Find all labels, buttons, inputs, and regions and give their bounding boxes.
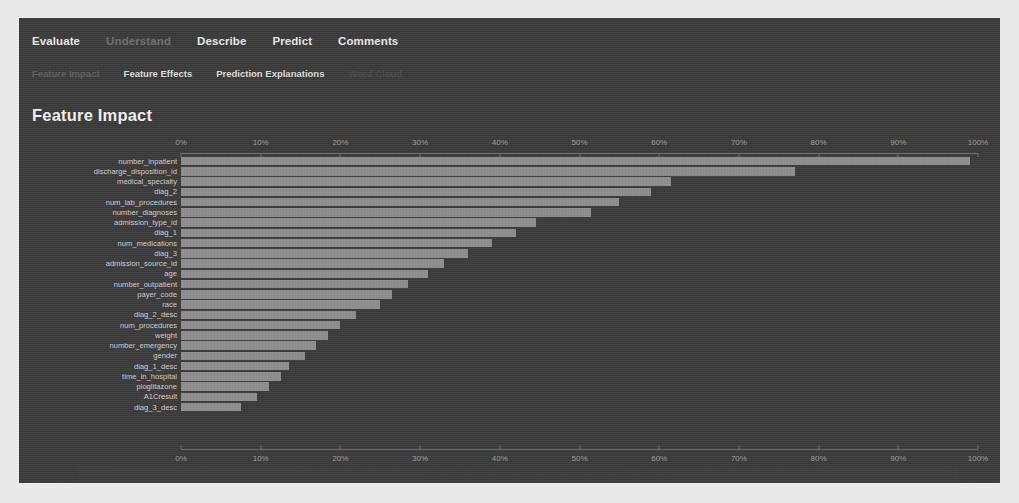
bar-fill[interactable] bbox=[181, 341, 316, 350]
bar-category-label: age bbox=[29, 269, 181, 278]
bar-row[interactable]: admission_source_id bbox=[29, 259, 990, 269]
sub-tab-word-cloud[interactable]: Word Cloud bbox=[348, 68, 402, 79]
bar-row[interactable]: number_emergency bbox=[29, 341, 990, 351]
bar-track bbox=[181, 382, 978, 392]
x-axis-tick-label: 60% bbox=[651, 454, 667, 463]
bar-fill[interactable] bbox=[181, 331, 328, 340]
bar-fill[interactable] bbox=[181, 300, 380, 309]
main-tab-predict[interactable]: Predict bbox=[272, 35, 312, 47]
x-axis-tick-label: 90% bbox=[890, 454, 906, 463]
bar-category-label: admission_type_id bbox=[29, 218, 181, 227]
bar-row[interactable]: num_procedures bbox=[29, 320, 990, 330]
x-axis-tick-label: 10% bbox=[253, 138, 269, 147]
bar-fill[interactable] bbox=[181, 198, 619, 207]
bar-fill[interactable] bbox=[181, 362, 289, 371]
bar-category-label: medical_specialty bbox=[29, 177, 181, 186]
bar-track bbox=[181, 351, 978, 361]
bar-fill[interactable] bbox=[181, 352, 305, 361]
bar-category-label: A1Cresult bbox=[29, 392, 181, 401]
x-axis-tick-label: 60% bbox=[651, 138, 667, 147]
bar-track bbox=[181, 330, 978, 340]
bar-fill[interactable] bbox=[181, 311, 356, 320]
bar-row[interactable]: age bbox=[29, 269, 990, 279]
main-tab-describe[interactable]: Describe bbox=[197, 35, 246, 47]
bar-category-label: diag_1 bbox=[29, 228, 181, 237]
bar-fill[interactable] bbox=[181, 239, 492, 248]
bar-row[interactable]: num_medications bbox=[29, 238, 990, 248]
sub-tab-prediction-explanations[interactable]: Prediction Explanations bbox=[216, 68, 324, 79]
bar-track bbox=[181, 166, 978, 176]
bar-row[interactable]: number_outpatient bbox=[29, 279, 990, 289]
bar-row[interactable]: number_diagnoses bbox=[29, 207, 990, 217]
bar-fill[interactable] bbox=[181, 290, 392, 299]
bar-row[interactable]: gender bbox=[29, 351, 990, 361]
bar-row[interactable]: diag_1_desc bbox=[29, 361, 990, 371]
bar-row[interactable]: admission_type_id bbox=[29, 218, 990, 228]
x-axis-tick-label: 0% bbox=[175, 138, 187, 147]
bar-track bbox=[181, 197, 978, 207]
main-tab-comments[interactable]: Comments bbox=[338, 35, 398, 47]
bar-row[interactable]: race bbox=[29, 300, 990, 310]
bar-fill[interactable] bbox=[181, 403, 241, 412]
bar-category-label: number_emergency bbox=[29, 341, 181, 350]
bar-row[interactable]: diag_3_desc bbox=[29, 402, 990, 412]
bar-track bbox=[181, 320, 978, 330]
sub-tab-feature-impact[interactable]: Feature Impact bbox=[32, 68, 100, 79]
x-axis-tick-label: 100% bbox=[968, 138, 988, 147]
bar-row[interactable]: A1Cresult bbox=[29, 392, 990, 402]
x-axis-tick-label: 10% bbox=[253, 454, 269, 463]
bar-track bbox=[181, 371, 978, 381]
bar-fill[interactable] bbox=[181, 188, 651, 197]
bar-fill[interactable] bbox=[181, 270, 428, 279]
bar-category-label: pioglitazone bbox=[29, 382, 181, 391]
x-axis-tick-label: 70% bbox=[731, 138, 747, 147]
x-axis-tick-label: 40% bbox=[492, 138, 508, 147]
bar-fill[interactable] bbox=[181, 208, 591, 217]
x-axis-tick-label: 20% bbox=[332, 138, 348, 147]
bar-track bbox=[181, 310, 978, 320]
page-title: Feature Impact bbox=[32, 106, 1000, 125]
bar-fill[interactable] bbox=[181, 157, 970, 166]
bar-track bbox=[181, 238, 978, 248]
bar-fill[interactable] bbox=[181, 321, 340, 330]
bar-row[interactable]: payer_code bbox=[29, 289, 990, 299]
bar-track bbox=[181, 218, 978, 228]
bar-fill[interactable] bbox=[181, 259, 444, 268]
x-axis-tick-label: 0% bbox=[175, 454, 187, 463]
bar-fill[interactable] bbox=[181, 229, 516, 238]
main-tab-evaluate[interactable]: Evaluate bbox=[32, 35, 80, 47]
main-tab-bar: Evaluate Understand Describe Predict Com… bbox=[19, 18, 1000, 52]
bar-track bbox=[181, 269, 978, 279]
bar-row[interactable]: time_in_hospital bbox=[29, 371, 990, 381]
bar-row[interactable]: num_lab_procedures bbox=[29, 197, 990, 207]
bar-row[interactable]: diag_2_desc bbox=[29, 310, 990, 320]
x-axis-tick-label: 70% bbox=[731, 454, 747, 463]
bar-row[interactable]: discharge_disposition_id bbox=[29, 166, 990, 176]
bar-track bbox=[181, 259, 978, 269]
bar-row[interactable]: medical_specialty bbox=[29, 177, 990, 187]
bar-category-label: gender bbox=[29, 351, 181, 360]
bar-fill[interactable] bbox=[181, 249, 468, 258]
bar-row[interactable]: weight bbox=[29, 330, 990, 340]
bar-track bbox=[181, 207, 978, 217]
main-tab-understand[interactable]: Understand bbox=[106, 35, 171, 47]
bar-category-label: num_procedures bbox=[29, 321, 181, 330]
bar-fill[interactable] bbox=[181, 280, 408, 289]
bar-fill[interactable] bbox=[181, 218, 536, 227]
bar-fill[interactable] bbox=[181, 382, 269, 391]
bar-row[interactable]: diag_2 bbox=[29, 187, 990, 197]
x-axis-top-labels: 0%10%20%30%40%50%60%70%80%90%100% bbox=[181, 138, 978, 152]
bar-fill[interactable] bbox=[181, 167, 795, 176]
bar-row[interactable]: diag_3 bbox=[29, 248, 990, 258]
bar-fill[interactable] bbox=[181, 177, 671, 186]
bar-plot: number_inpatientdischarge_disposition_id… bbox=[29, 156, 990, 446]
bar-track bbox=[181, 279, 978, 289]
bar-track bbox=[181, 402, 978, 412]
bar-row[interactable]: diag_1 bbox=[29, 228, 990, 238]
bar-row[interactable]: number_inpatient bbox=[29, 156, 990, 166]
sub-tab-feature-effects[interactable]: Feature Effects bbox=[124, 68, 193, 79]
bar-category-label: race bbox=[29, 300, 181, 309]
bar-row[interactable]: pioglitazone bbox=[29, 382, 990, 392]
bar-fill[interactable] bbox=[181, 393, 257, 402]
bar-fill[interactable] bbox=[181, 372, 281, 381]
